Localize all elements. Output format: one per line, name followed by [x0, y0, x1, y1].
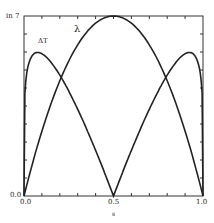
x-axis-label: s [112, 210, 115, 217]
delta-t-annotation: ΔT [38, 38, 48, 45]
x-tick-label-0: 0.0 [20, 199, 31, 206]
lambda-annotation: λ [74, 25, 80, 32]
y-axis-top-label: in 7 [6, 13, 19, 20]
chart-plot [0, 0, 214, 223]
x-tick-label-0-5: 0.5 [108, 199, 119, 206]
x-tick-label-1: 1.0 [196, 199, 207, 206]
lambda-curve [24, 16, 203, 196]
delta-t-curve [24, 53, 203, 197]
